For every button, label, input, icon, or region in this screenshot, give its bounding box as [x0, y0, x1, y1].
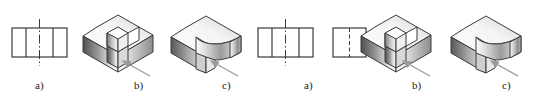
view-direction-arrow-b — [123, 61, 150, 76]
caption-right-c: c) — [502, 79, 511, 91]
view-direction-arrow-b2 — [403, 61, 430, 76]
left-ortho-front-view — [12, 19, 67, 66]
iso-c-tongue-side — [196, 53, 206, 73]
left-iso-square-notch-block — [83, 15, 153, 76]
right-iso-round-notch-block — [451, 16, 521, 76]
left-iso-round-notch-block — [171, 16, 241, 76]
iso2-c-tongue-front — [486, 57, 495, 73]
technical-drawing-figure: a) b) c) a) b) c) — [0, 0, 549, 101]
iso2-c-tongue-side — [476, 53, 486, 73]
caption-left-b: b) — [134, 79, 143, 91]
iso-c-tongue-front — [206, 57, 215, 73]
caption-right-a: a) — [304, 79, 313, 91]
caption-left-c: c) — [222, 79, 231, 91]
caption-right-b: b) — [412, 79, 421, 91]
caption-left-a: a) — [35, 79, 44, 91]
right-ortho-front-view — [258, 19, 313, 66]
drawing-canvas — [0, 0, 549, 101]
right-iso-square-notch-block — [361, 15, 431, 76]
